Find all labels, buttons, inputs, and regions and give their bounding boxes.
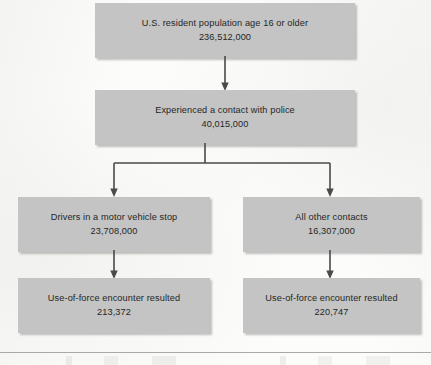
- flowchart-node-drivers: Drivers in a motor vehicle stop 23,708,0…: [18, 197, 210, 252]
- flowchart-node-other-contacts: All other contacts 16,307,000: [243, 197, 420, 252]
- node-label: All other contacts: [295, 211, 367, 224]
- connector-drivers-to-force: [90, 250, 140, 280]
- node-value: 16,307,000: [308, 225, 355, 238]
- node-value: 23,708,000: [91, 225, 138, 238]
- node-label: Drivers in a motor vehicle stop: [51, 211, 178, 224]
- connector-population-to-contact: [200, 56, 250, 92]
- node-value: 220,747: [315, 306, 349, 319]
- node-label: Experienced a contact with police: [155, 104, 295, 117]
- node-value: 213,372: [97, 306, 131, 319]
- flowchart-node-force-other: Use-of-force encounter resulted 220,747: [243, 278, 420, 333]
- flowchart-node-force-drivers: Use-of-force encounter resulted 213,372: [18, 278, 210, 333]
- node-value: 40,015,000: [202, 118, 249, 131]
- flowchart-node-population: U.S. resident population age 16 or older…: [95, 3, 355, 58]
- node-label: U.S. resident population age 16 or older: [142, 17, 308, 30]
- bottom-divider-rule: [0, 352, 431, 353]
- page-bleed-through: [0, 356, 431, 365]
- flowchart-node-contact: Experienced a contact with police 40,015…: [95, 90, 355, 145]
- flowchart-diagram: U.S. resident population age 16 or older…: [0, 0, 431, 365]
- node-value: 236,512,000: [199, 31, 251, 44]
- connector-other-to-force: [305, 250, 355, 280]
- node-label: Use-of-force encounter resulted: [48, 292, 180, 305]
- node-label: Use-of-force encounter resulted: [265, 292, 397, 305]
- connector-contact-split: [90, 143, 365, 199]
